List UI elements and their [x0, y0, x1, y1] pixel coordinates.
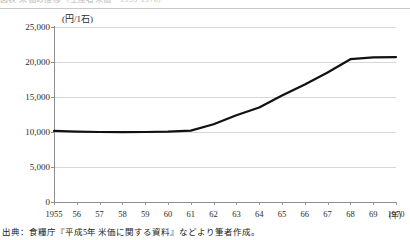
- chart-page: 図表 米価の推移（生産者米価・1955-1970） (円/1石) 25,0002…: [0, 0, 410, 240]
- x-axis-tick-mark: [214, 202, 215, 205]
- y-axis-tick-mark: [51, 97, 54, 98]
- y-axis-tick-label: 5,000: [30, 163, 50, 172]
- x-axis-tick-mark: [77, 202, 78, 205]
- y-axis-tick-label: 20,000: [25, 58, 50, 67]
- x-axis-tick-mark: [236, 202, 237, 205]
- x-axis-tick-label: 68: [346, 210, 355, 219]
- gridline: [54, 132, 396, 133]
- y-axis-tick-mark: [51, 202, 54, 203]
- x-axis-tick-label: 65: [278, 210, 287, 219]
- x-axis-tick-mark: [396, 202, 397, 205]
- x-axis-line: [54, 202, 397, 203]
- x-axis-tick-label: 59: [141, 210, 150, 219]
- x-axis-tick-mark: [100, 202, 101, 205]
- y-axis-tick-mark: [51, 62, 54, 63]
- x-axis-tick-label: 61: [187, 210, 196, 219]
- y-axis-tick-label: 10,000: [25, 128, 50, 137]
- x-axis-tick-mark: [259, 202, 260, 205]
- x-axis-tick-mark: [305, 202, 306, 205]
- x-axis-tick-mark: [328, 202, 329, 205]
- x-axis-tick-mark: [282, 202, 283, 205]
- x-axis-tick-label: 66: [301, 210, 310, 219]
- x-axis-tick-mark: [373, 202, 374, 205]
- gridline: [54, 27, 396, 28]
- x-axis-tick-label: 56: [73, 210, 82, 219]
- gridline: [54, 97, 396, 98]
- x-axis-tick-label: 62: [209, 210, 218, 219]
- source-note: 出典：食糧庁『平成5年 米価に関する資料』などより筆者作成。: [2, 227, 260, 237]
- y-axis-labels: 25,00020,00015,00010,0005,0000: [0, 0, 50, 240]
- y-axis-line: [54, 26, 55, 203]
- y-axis-tick-mark: [51, 132, 54, 133]
- x-axis-tick-mark: [350, 202, 351, 205]
- top-caption: 図表 米価の推移（生産者米価・1955-1970）: [0, 0, 410, 7]
- x-axis-tick-mark: [122, 202, 123, 205]
- x-axis-tick-label: 60: [164, 210, 173, 219]
- y-axis-tick-label: 0: [46, 198, 51, 207]
- header-divider: [0, 8, 410, 9]
- x-axis-tick-label: 1955: [46, 210, 63, 219]
- x-axis-tick-mark: [145, 202, 146, 205]
- x-axis-tick-label: 67: [323, 210, 332, 219]
- x-axis-tick-label: 57: [95, 210, 104, 219]
- x-axis-tick-mark: [168, 202, 169, 205]
- plot-area: [54, 27, 396, 202]
- y-axis-tick-label: 25,000: [25, 23, 50, 32]
- x-axis-tick-label: 69: [369, 210, 378, 219]
- x-axis-tick-label: 58: [118, 210, 127, 219]
- y-axis-tick-mark: [51, 27, 54, 28]
- x-axis-tick-mark: [54, 202, 55, 205]
- y-axis-unit-label: (円/1石): [62, 14, 93, 24]
- x-axis-unit-label: (年): [389, 211, 401, 220]
- gridline: [54, 62, 396, 63]
- y-axis-tick-mark: [51, 167, 54, 168]
- x-axis-tick-label: 64: [255, 210, 264, 219]
- gridline: [54, 167, 396, 168]
- x-axis-tick-mark: [191, 202, 192, 205]
- x-axis-tick-label: 63: [232, 210, 241, 219]
- y-axis-tick-label: 15,000: [25, 93, 50, 102]
